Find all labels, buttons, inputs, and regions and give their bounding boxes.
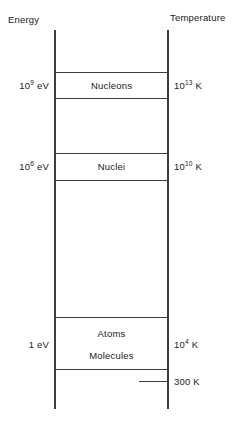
temperature-value-10e13-mantissa: 10 [174, 80, 185, 91]
energy-value-1ev-unit: eV [34, 339, 49, 350]
temperature-value-10e10-unit: K [193, 161, 202, 172]
energy-value-1ev: 1 eV [29, 340, 49, 350]
separator-nucleons-bottom [54, 98, 169, 99]
energy-value-10e6-unit: eV [34, 161, 49, 172]
temperature-value-10e13-exponent: 13 [185, 79, 193, 86]
separator-atoms-bottom [54, 369, 169, 370]
temperature-value-10e4-mantissa: 10 [174, 339, 185, 350]
band-label-molecules: Molecules [54, 351, 169, 361]
band-label-nucleons: Nucleons [54, 81, 169, 91]
separator-nuclei-bottom [54, 180, 169, 181]
temperature-value-10e4-unit: K [189, 339, 198, 350]
temperature-value-300k-mantissa: 300 [174, 376, 190, 387]
temperature-value-10e13-unit: K [193, 80, 202, 91]
energy-value-10e6: 106 eV [19, 162, 49, 172]
temperature-value-300k: 300 K [174, 377, 200, 387]
temperature-value-10e10: 1010 K [174, 162, 202, 172]
energy-value-10e9-mantissa: 10 [19, 80, 30, 91]
band-label-atoms: Atoms [54, 329, 169, 339]
tick-300-k [139, 381, 169, 382]
energy-temperature-scale-diagram: Energy Temperature Nucleons Nuclei Atoms… [0, 0, 239, 422]
separator-nucleons-top [54, 72, 169, 73]
temperature-value-10e4: 104 K [174, 340, 198, 350]
separator-nuclei-top [54, 153, 169, 154]
energy-value-10e9-unit: eV [34, 80, 49, 91]
temperature-value-10e10-mantissa: 10 [174, 161, 185, 172]
band-label-nuclei: Nuclei [54, 162, 169, 172]
energy-value-10e9: 109 eV [19, 81, 49, 91]
separator-atoms-top [54, 317, 169, 318]
temperature-axis-header: Temperature [170, 13, 226, 23]
temperature-value-300k-unit: K [190, 376, 199, 387]
temperature-value-10e13: 1013 K [174, 81, 202, 91]
temperature-value-10e10-exponent: 10 [185, 160, 193, 167]
energy-value-10e6-mantissa: 10 [19, 161, 30, 172]
energy-axis-header: Energy [8, 15, 39, 25]
